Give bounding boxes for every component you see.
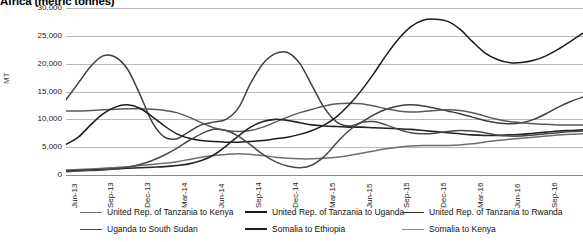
legend-swatch-icon [245, 211, 267, 213]
plot-area: MT 30,00025,00020,00015,00010,0005,0000 [0, 8, 583, 178]
legend-label: Somalia to Ethiopia [272, 225, 345, 234]
series-line [66, 121, 583, 171]
gridline [66, 175, 583, 176]
legend-item[interactable]: United Rep. of Tanzania to Kenya [80, 208, 233, 217]
chart-legend: United Rep. of Tanzania to KenyaUnited R… [0, 205, 583, 242]
legend-swatch-icon [80, 229, 102, 230]
y-tick-label: 15,000 [6, 88, 62, 96]
legend-label: United Rep. of Tanzania to Rwanda [429, 208, 563, 217]
legend-label: Somalia to Kenya [429, 225, 496, 234]
y-axis-tick-labels: 30,00025,00020,00015,00010,0005,0000 [0, 8, 62, 175]
legend-item[interactable]: United Rep. of Tanzania to Uganda [245, 208, 404, 217]
legend-row: Uganda to South SudanSomalia to Ethiopia… [0, 222, 583, 239]
legend-item[interactable]: Somalia to Ethiopia [245, 225, 345, 234]
y-tick-label: 20,000 [6, 60, 62, 68]
y-tick-label: 10,000 [6, 115, 62, 123]
legend-swatch-icon [402, 212, 424, 213]
legend-item[interactable]: Somalia to Kenya [402, 225, 496, 234]
y-tick-label: 5,000 [6, 143, 62, 151]
legend-label: United Rep. of Tanzania to Uganda [272, 208, 404, 217]
y-tick-label: 0 [6, 171, 62, 179]
legend-swatch-icon [80, 212, 102, 213]
chart-container: Africa (metric tonnes) MT 30,00025,00020… [0, 0, 583, 242]
series-line [66, 134, 583, 170]
legend-label: United Rep. of Tanzania to Kenya [107, 208, 233, 217]
legend-swatch-icon [245, 228, 267, 230]
legend-item[interactable]: Uganda to South Sudan [80, 225, 198, 234]
legend-row: United Rep. of Tanzania to KenyaUnited R… [0, 205, 583, 222]
y-tick-label: 30,000 [6, 4, 62, 12]
legend-label: Uganda to South Sudan [107, 225, 198, 234]
legend-swatch-icon [402, 229, 424, 230]
series-lines [66, 8, 583, 175]
y-tick-label: 25,000 [6, 32, 62, 40]
legend-item[interactable]: United Rep. of Tanzania to Rwanda [402, 208, 563, 217]
